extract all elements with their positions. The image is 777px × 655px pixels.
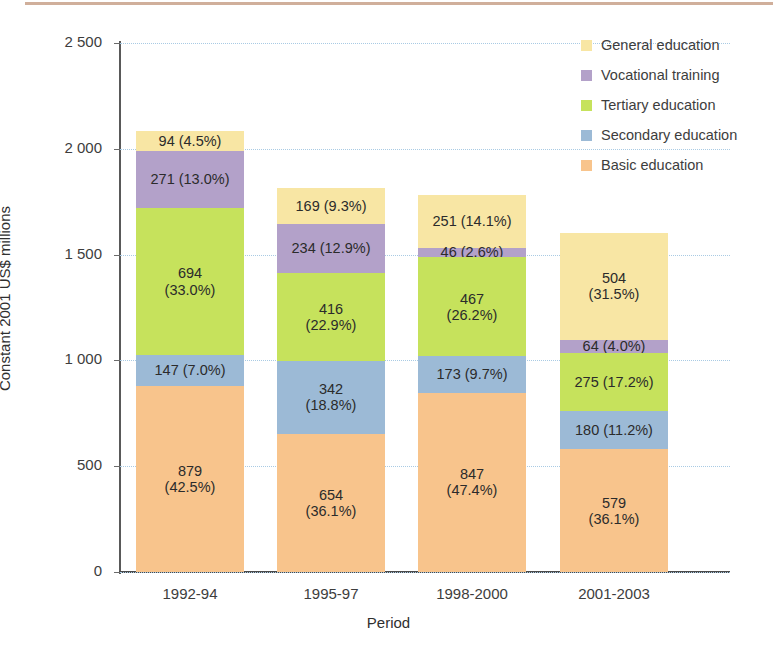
bar-segment-label: 234 (12.9%) — [292, 240, 371, 256]
y-axis-tick — [114, 43, 120, 44]
bar-segment-label: 251 (14.1%) — [433, 213, 512, 229]
bar-segment-secondary-education[interactable]: 342 (18.8%) — [277, 361, 385, 433]
bar-segment-label: 879 (42.5%) — [165, 463, 216, 495]
bar-segment-secondary-education[interactable]: 173 (9.7%) — [418, 356, 526, 393]
bar-segment-label: 275 (17.2%) — [575, 374, 654, 390]
bar-segment-label: 504 (31.5%) — [589, 270, 640, 302]
bar-segment-general-education[interactable]: 94 (4.5%) — [136, 131, 244, 151]
legend-item-secondary-education[interactable]: Secondary education — [581, 120, 737, 150]
x-axis-tick-label: 2001-2003 — [534, 585, 694, 602]
gridline — [120, 572, 730, 574]
y-axis-tick — [114, 149, 120, 150]
bar-segment-tertiary-education[interactable]: 467 (26.2%) — [418, 257, 526, 356]
bar-1992-94[interactable]: 94 (4.5%)271 (13.0%)694 (33.0%)147 (7.0%… — [136, 131, 244, 572]
bar-segment-label: 847 (47.4%) — [447, 466, 498, 498]
bar-1998-2000[interactable]: 251 (14.1%)46 (2.6%)467 (26.2%)173 (9.7%… — [418, 195, 526, 572]
y-axis-tick-label: 500 — [2, 456, 102, 473]
bar-segment-basic-education[interactable]: 654 (36.1%) — [277, 434, 385, 572]
bar-segment-label: 180 (11.2%) — [575, 422, 653, 438]
bar-segment-label: 169 (9.3%) — [296, 198, 367, 214]
bar-1995-97[interactable]: 169 (9.3%)234 (12.9%)416 (22.9%)342 (18.… — [277, 188, 385, 572]
bar-segment-label: 173 (9.7%) — [437, 366, 508, 382]
legend-item-general-education[interactable]: General education — [581, 30, 737, 60]
legend-swatch-icon — [581, 70, 592, 81]
chart-legend: General educationVocational trainingTert… — [581, 30, 737, 180]
y-axis-tick-label: 2 500 — [2, 33, 102, 50]
bar-segment-vocational-training[interactable]: 64 (4.0%) — [560, 340, 668, 354]
bar-segment-secondary-education[interactable]: 180 (11.2%) — [560, 411, 668, 449]
legend-label: General education — [601, 37, 720, 53]
bar-segment-label: 94 (4.5%) — [159, 133, 222, 149]
stacked-bar-chart-figure: 05001 0001 5002 0002 50094 (4.5%)271 (13… — [0, 0, 777, 655]
legend-swatch-icon — [581, 40, 592, 51]
page-top-rule — [25, 2, 773, 5]
bar-segment-label: 654 (36.1%) — [306, 487, 357, 519]
y-axis-title: Constant 2001 US$ millions — [0, 29, 13, 569]
y-axis-tick-label: 1 000 — [2, 350, 102, 367]
bar-segment-basic-education[interactable]: 847 (47.4%) — [418, 393, 526, 572]
x-axis-title: Period — [0, 614, 777, 631]
legend-item-basic-education[interactable]: Basic education — [581, 150, 737, 180]
bar-segment-tertiary-education[interactable]: 275 (17.2%) — [560, 353, 668, 411]
bar-segment-general-education[interactable]: 169 (9.3%) — [277, 188, 385, 224]
legend-label: Tertiary education — [601, 97, 715, 113]
bar-segment-basic-education[interactable]: 579 (36.1%) — [560, 449, 668, 572]
legend-label: Secondary education — [601, 127, 737, 143]
legend-label: Vocational training — [601, 67, 720, 83]
bar-segment-tertiary-education[interactable]: 416 (22.9%) — [277, 273, 385, 361]
y-axis-tick-label: 2 000 — [2, 139, 102, 156]
y-axis-tick-label: 1 500 — [2, 245, 102, 262]
bar-segment-label: 64 (4.0%) — [583, 338, 646, 354]
bar-2001-2003[interactable]: 504 (31.5%)64 (4.0%)275 (17.2%)180 (11.2… — [560, 233, 668, 572]
bar-segment-label: 579 (36.1%) — [589, 495, 640, 527]
bar-segment-label: 271 (13.0%) — [151, 171, 230, 187]
legend-label: Basic education — [601, 157, 703, 173]
bar-segment-vocational-training[interactable]: 271 (13.0%) — [136, 151, 244, 208]
legend-swatch-icon — [581, 160, 592, 171]
bar-segment-general-education[interactable]: 504 (31.5%) — [560, 233, 668, 340]
bar-segment-vocational-training[interactable]: 234 (12.9%) — [277, 224, 385, 274]
legend-swatch-icon — [581, 130, 592, 141]
legend-swatch-icon — [581, 100, 592, 111]
bar-segment-label: 342 (18.8%) — [306, 381, 357, 413]
y-axis-tick-label: 0 — [2, 562, 102, 579]
bar-segment-tertiary-education[interactable]: 694 (33.0%) — [136, 208, 244, 355]
y-axis-tick — [114, 255, 120, 256]
bar-segment-secondary-education[interactable]: 147 (7.0%) — [136, 355, 244, 386]
x-axis-tick-label: 1992-94 — [110, 585, 270, 602]
y-axis-tick — [114, 360, 120, 361]
y-axis-tick — [114, 572, 120, 573]
bar-segment-label: 147 (7.0%) — [155, 362, 226, 378]
bar-segment-vocational-training[interactable]: 46 (2.6%) — [418, 248, 526, 258]
bar-segment-basic-education[interactable]: 879 (42.5%) — [136, 386, 244, 572]
bar-segment-general-education[interactable]: 251 (14.1%) — [418, 195, 526, 248]
bar-segment-label: 416 (22.9%) — [306, 301, 357, 333]
y-axis-tick — [114, 466, 120, 467]
x-axis-tick-label: 1998-2000 — [392, 585, 552, 602]
x-axis-tick-label: 1995-97 — [251, 585, 411, 602]
bar-segment-label: 694 (33.0%) — [165, 265, 216, 297]
legend-item-vocational-training[interactable]: Vocational training — [581, 60, 737, 90]
bar-segment-label: 467 (26.2%) — [447, 291, 498, 323]
legend-item-tertiary-education[interactable]: Tertiary education — [581, 90, 737, 120]
